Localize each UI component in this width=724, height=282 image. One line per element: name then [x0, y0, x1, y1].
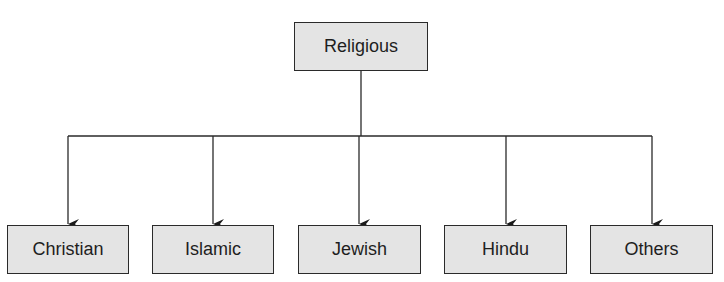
node-label: Hindu — [482, 239, 529, 260]
node-label: Others — [624, 239, 678, 260]
node-label: Christian — [32, 239, 103, 260]
node-religious: Religious — [294, 22, 428, 71]
node-label: Jewish — [332, 239, 387, 260]
node-jewish: Jewish — [298, 225, 421, 274]
node-islamic: Islamic — [152, 225, 274, 274]
node-label: Religious — [324, 36, 398, 57]
node-label: Islamic — [185, 239, 241, 260]
node-others: Others — [590, 225, 713, 274]
node-christian: Christian — [7, 225, 129, 274]
node-hindu: Hindu — [444, 225, 567, 274]
